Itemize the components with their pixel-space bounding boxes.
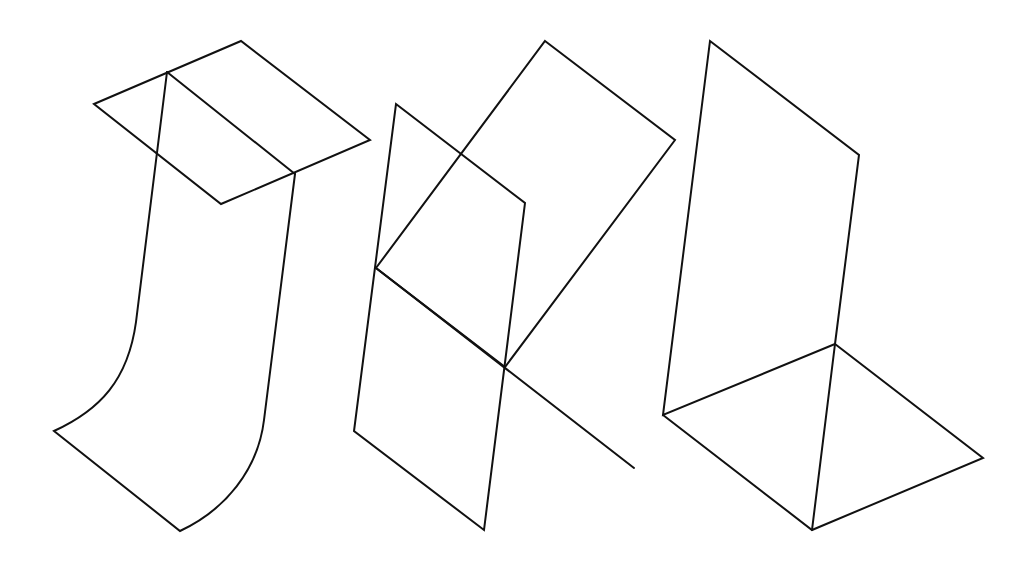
curved-sheet-with-square-edge-1 xyxy=(167,72,295,174)
two-intersecting-planes-edge-2 xyxy=(376,268,634,468)
l-shaped-planes-edge-0 xyxy=(663,41,859,415)
l-shaped-planes-edge-2 xyxy=(812,344,835,530)
figure-l-shaped-planes xyxy=(663,41,983,530)
curved-sheet-with-square-edge-0 xyxy=(94,41,370,204)
diagram-canvas xyxy=(0,0,1027,575)
figure-curved-sheet xyxy=(54,41,370,531)
curved-sheet-with-square-edge-2 xyxy=(54,72,295,531)
figure-intersecting-planes xyxy=(354,41,675,530)
